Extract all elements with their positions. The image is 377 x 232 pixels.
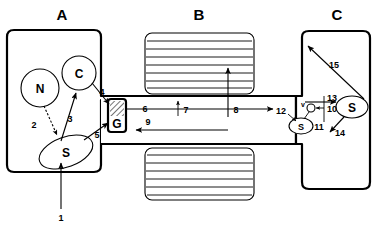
node-n-label: N: [36, 82, 45, 96]
number-label-1: 1: [58, 213, 63, 223]
number-label-7: 7: [183, 105, 188, 115]
section-label-c: C: [332, 6, 343, 23]
diagram-canvas: N C S G v S: [0, 0, 377, 232]
node-v-label: v: [301, 101, 305, 108]
number-label-13: 13: [327, 93, 337, 103]
central-channel-outline: [101, 96, 296, 144]
panel-b-bottom: [145, 148, 254, 200]
node-s-right: S: [336, 96, 368, 118]
node-c-label: C: [75, 67, 84, 81]
node-s-mid-label: S: [298, 122, 304, 132]
number-label-9: 9: [145, 117, 150, 127]
number-label-12: 12: [276, 106, 286, 116]
number-label-3: 3: [67, 114, 72, 124]
node-s-mid: S: [289, 118, 313, 134]
number-label-11: 11: [314, 122, 324, 132]
number-label-6: 6: [142, 104, 147, 114]
number-label-2: 2: [31, 120, 36, 130]
process-flow-diagram: N C S G v S: [0, 0, 377, 232]
section-label-a: A: [57, 6, 68, 23]
node-g-label: G: [112, 117, 121, 131]
node-g: G: [108, 99, 126, 132]
node-c: C: [62, 56, 96, 90]
panel-b-top: [145, 33, 254, 94]
number-label-15: 15: [329, 60, 339, 70]
number-label-8: 8: [233, 105, 238, 115]
node-s-left-label: S: [62, 146, 70, 160]
number-label-14: 14: [335, 128, 345, 138]
node-n: N: [21, 69, 59, 107]
section-label-b: B: [194, 6, 205, 23]
number-label-4: 4: [99, 87, 104, 97]
number-label-10: 10: [327, 104, 337, 114]
number-label-5: 5: [94, 130, 99, 140]
node-s-right-label: S: [348, 101, 356, 115]
